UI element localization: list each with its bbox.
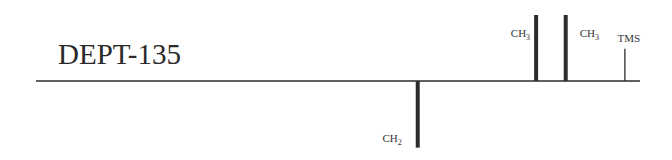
chart-title: DEPT-135 bbox=[58, 38, 181, 70]
peak-label-main: TMS bbox=[618, 32, 641, 44]
peak-label-ch3-b: CH3 bbox=[580, 27, 599, 42]
peak-label-tms: TMS bbox=[618, 32, 641, 44]
peak-label-main: CH bbox=[580, 27, 595, 39]
peak-label-subscript: 3 bbox=[595, 33, 599, 42]
dept-135-spectrum: DEPT-135 CH2CH3CH3TMS bbox=[0, 0, 672, 160]
peak-label-subscript: 3 bbox=[526, 33, 530, 42]
peak-label-main: CH bbox=[511, 27, 526, 39]
peak-label-main: CH bbox=[382, 132, 397, 144]
peak-label-subscript: 2 bbox=[398, 138, 402, 147]
peak-label-ch3-a: CH3 bbox=[511, 27, 530, 42]
peak-label-ch2: CH2 bbox=[382, 132, 401, 147]
